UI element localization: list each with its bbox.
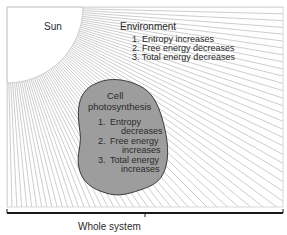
sun-label: Sun	[44, 22, 62, 32]
cell-item-3-num: 3.	[98, 156, 106, 166]
cell-item-3-line2: increases	[121, 165, 160, 175]
whole-system-brace	[7, 209, 283, 217]
cell-item-1-num: 1.	[98, 118, 106, 128]
whole-system-label: Whole system	[78, 222, 141, 232]
cell-title: Cell	[107, 91, 123, 101]
cell-item-2-num: 2.	[98, 137, 106, 147]
environment-title: Environment	[120, 22, 176, 32]
cell-subtitle: photosynthesis	[88, 102, 151, 112]
environment-item-3: 3. Total energy decreases	[132, 53, 235, 62]
